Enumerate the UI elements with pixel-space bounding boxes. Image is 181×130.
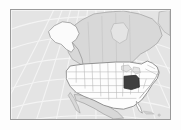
locator-map-thumbnail: North America Locator Map [0, 0, 181, 130]
map-frame[interactable] [10, 9, 171, 120]
map-canvas[interactable] [11, 10, 170, 119]
highlighted-state[interactable] [124, 75, 139, 89]
map-title: North America Locator Map [0, 0, 1, 1]
